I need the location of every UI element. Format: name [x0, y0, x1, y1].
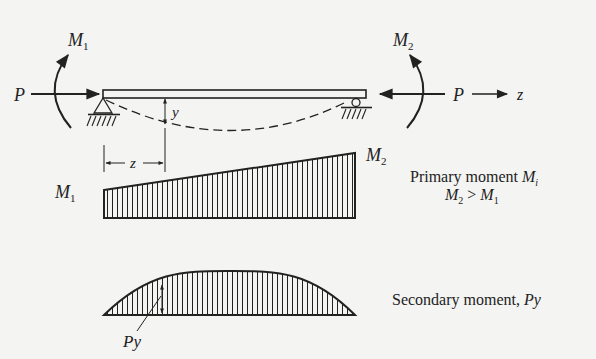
Py-label: Py: [122, 332, 141, 351]
beam-column-diagram: y z P M1 P z M2 M1 M2 Primary mome: [0, 0, 596, 359]
z-axis-label: z: [516, 86, 524, 103]
z-dimension: z: [104, 128, 165, 172]
roller-support-right: [341, 99, 372, 120]
P-left-label: P: [13, 85, 25, 105]
M1-top-label: M1: [67, 30, 89, 52]
primary-moment-caption: Primary moment Mi M2 > M1: [410, 168, 538, 206]
y-label: y: [170, 104, 179, 120]
ground-hatch-right: [342, 109, 366, 119]
moment-inequality: M2 > M1: [444, 186, 499, 206]
moment-arc-icon: [407, 55, 423, 128]
end-moment-M1: M1: [55, 30, 89, 128]
M2-top-label: M2: [392, 30, 414, 52]
y-dimension: y: [165, 99, 179, 124]
moment-arc-icon: [55, 55, 71, 128]
secondary-moment-caption: Secondary moment, Py: [392, 291, 542, 309]
end-moment-M2: M2: [392, 30, 423, 128]
secondary-moment-diagram: Py: [104, 271, 355, 351]
pin-support-left: [87, 98, 120, 126]
primary-moment-title: Primary moment Mi: [410, 168, 538, 188]
P-right-label: P: [452, 85, 464, 105]
M2-diagram-label: M2: [365, 145, 387, 167]
beam: [103, 90, 366, 98]
M1-diagram-label: M1: [54, 182, 76, 204]
ground-hatch-left: [87, 116, 116, 126]
z-axis: z: [472, 86, 524, 103]
deflected-shape-curve: [106, 100, 346, 131]
z-dim-label: z: [129, 155, 136, 171]
